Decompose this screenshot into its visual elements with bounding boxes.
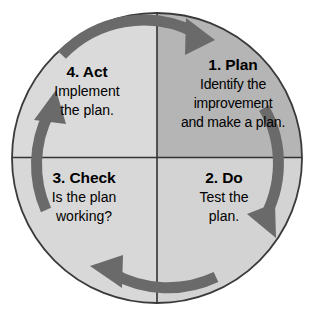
quadrant-check-line-2: working? [14,207,154,226]
quadrant-act: 4. Act Implement the plan. [20,62,154,120]
quadrant-act-line-1: Implement [20,82,154,101]
quadrant-do-line-2: plan. [158,207,290,226]
quadrant-plan-line-2: improvement [158,94,308,113]
quadrant-check-heading: 3. Check [14,168,154,188]
pdca-cycle-diagram: 1. Plan Identify the improvement and mak… [0,0,312,322]
quadrant-act-line-2: the plan. [20,101,154,120]
quadrant-do-line-1: Test the [158,188,290,207]
quadrant-plan-line-1: Identify the [158,75,308,94]
cycle-graphic [0,0,312,322]
quadrant-check-line-1: Is the plan [14,188,154,207]
quadrant-plan-heading: 1. Plan [158,55,308,75]
quadrant-check: 3. Check Is the plan working? [14,168,154,226]
quadrant-act-heading: 4. Act [20,62,154,82]
quadrant-plan: 1. Plan Identify the improvement and mak… [158,55,308,132]
quadrant-do: 2. Do Test the plan. [158,168,290,226]
quadrant-plan-line-3: and make a plan. [158,113,308,132]
quadrant-do-heading: 2. Do [158,168,290,188]
